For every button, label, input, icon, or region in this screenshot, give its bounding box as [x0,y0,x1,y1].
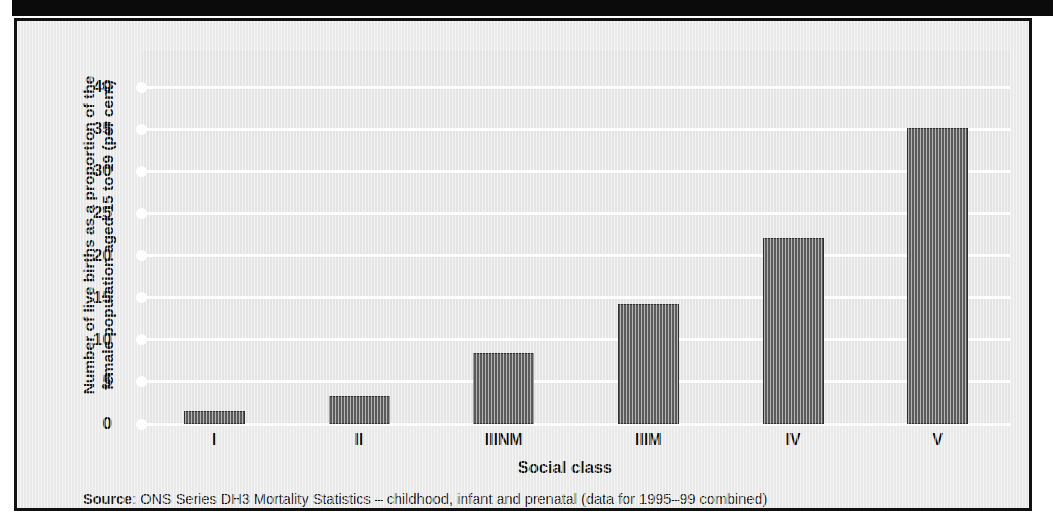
y-tick-dot [136,124,147,135]
gridline [142,296,1010,299]
source-label: Source [83,491,132,507]
gridline [142,128,1010,131]
gridline [142,254,1010,257]
y-tick-dot [136,166,147,177]
x-tick-label-ii: II [299,431,419,449]
y-axis-title-line-1: Number of live births as a proportion of… [79,39,98,431]
y-tick-dot [136,250,147,261]
gridline [142,212,1010,215]
x-tick-label-v: V [878,431,998,449]
y-tick-dot [136,419,147,430]
y-axis-title: Number of live births as a proportion of… [29,35,83,435]
x-tick-label-iiinm: IIINM [444,431,564,449]
x-tick-label-iv: IV [733,431,853,449]
x-tick-label-i: I [154,431,274,449]
gridline [142,86,1010,89]
y-tick-dot [136,82,147,93]
figure-root: Number of live births as a proportion of… [0,0,1053,531]
source-note: Source: ONS Series DH3 Mortality Statist… [83,491,767,507]
bar-iiinm [473,353,534,424]
source-text: ONS Series DH3 Mortality Statistics – ch… [140,491,767,507]
top-black-band [12,0,1053,16]
bar-ii [329,396,390,424]
plot-background [142,51,1010,424]
y-tick-dot [136,208,147,219]
bar-iiim [618,304,679,424]
plot-area: 0510152025303540 [120,51,1010,424]
x-tick-label-iiim: IIIM [588,431,708,449]
bar-iv [763,238,824,424]
gridline [142,423,1010,426]
gridline [142,338,1010,341]
bar-i [184,411,245,424]
x-axis-title: Social class [120,458,1010,477]
gridline [142,170,1010,173]
bar-v [907,128,968,424]
gridline [142,380,1010,383]
figure-frame: Number of live births as a proportion of… [14,18,1032,511]
y-axis-title-line-2: female population aged 15 to 19 (per cen… [98,39,117,431]
